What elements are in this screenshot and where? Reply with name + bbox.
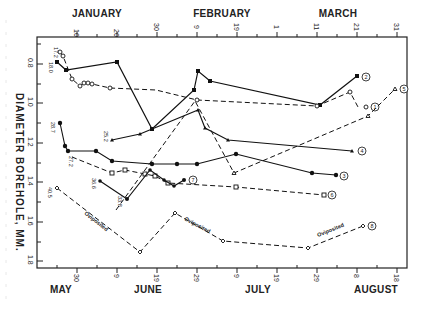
series-3: 3 <box>58 121 348 180</box>
month-label-february: FEBRUARY <box>193 8 251 19</box>
y-axis-title: DIAMETER BOREHOLE, MM. <box>14 93 25 252</box>
month-label-may: MAY <box>50 284 72 295</box>
start-value-labels: 18.0 17.2 28.7 27.2 25.2 36.6 33.8 40.5 <box>47 47 123 207</box>
top-tick: 20 <box>113 29 120 37</box>
y-tick: 0.8 <box>27 58 34 68</box>
bottom-tick: 9 <box>233 274 240 278</box>
month-label-august: AUGUST <box>354 284 398 295</box>
month-label-july: JULY <box>245 284 271 295</box>
month-label-june: JUNE <box>134 284 162 295</box>
y-tick: 1.0 <box>27 97 34 107</box>
series-3-id: 3 <box>342 173 345 179</box>
y-tick: 1.6 <box>27 216 34 226</box>
y-tick-labels: 0.8 1.0 1.2 1.4 1.6 1.8 <box>27 58 34 265</box>
bottom-axis <box>57 265 397 273</box>
bottom-tick: 8 <box>353 274 360 278</box>
start-label-36-6: 36.6 <box>91 178 97 189</box>
top-tick: 11 <box>313 23 320 30</box>
borehole-diameter-chart: JANUARY FEBRUARY MARCH MAY JUNE JULY AUG… <box>0 0 430 309</box>
oviposited-annotation-2: Oviposited <box>184 216 212 235</box>
series-6: 6 <box>72 157 336 199</box>
start-label-33-8: 33.8 <box>117 196 123 207</box>
top-tick: 31 <box>393 23 400 31</box>
y-tick: 1.2 <box>27 137 34 147</box>
series-7-id: 7 <box>191 177 194 183</box>
top-tick: 21 <box>353 23 360 31</box>
series-5-id: 5 <box>402 86 405 92</box>
series-6-id: 6 <box>330 192 333 198</box>
bottom-tick: 29 <box>193 274 200 282</box>
top-tick: 19 <box>233 23 240 31</box>
bottom-tick: 29 <box>313 274 320 282</box>
top-tick: 30 <box>153 23 160 31</box>
series-4: 4 <box>110 108 366 155</box>
series-4-id: 4 <box>360 148 363 154</box>
start-label-25-2: 25.2 <box>103 131 109 142</box>
series-1: 1 <box>58 50 379 111</box>
top-axis <box>77 32 397 37</box>
series-2: 2 <box>55 60 370 131</box>
start-label-17-2: 17.2 <box>53 47 59 58</box>
oviposited-annotation-1: Oviposited <box>83 210 109 232</box>
bottom-tick: 19 <box>153 274 160 282</box>
top-tick: 1 <box>273 25 280 29</box>
series-8-id: 8 <box>370 223 373 229</box>
start-label-28-7: 28.7 <box>50 122 56 133</box>
start-label-27-2: 27.2 <box>68 156 74 167</box>
bottom-tick: 18 <box>393 274 400 282</box>
top-tick: 10 <box>73 29 80 37</box>
month-label-march: MARCH <box>319 8 358 19</box>
y-tick: 1.4 <box>27 176 34 186</box>
bottom-tick: 19 <box>273 274 280 282</box>
series-2-id: 2 <box>364 74 367 80</box>
left-axis <box>37 44 43 261</box>
y-tick: 1.8 <box>27 255 34 265</box>
top-tick: 9 <box>193 25 200 29</box>
bottom-tick-labels: 30 9 19 29 9 19 29 8 18 <box>73 274 400 282</box>
start-label-18-0: 18.0 <box>48 62 54 73</box>
month-label-january: JANUARY <box>72 8 122 19</box>
bottom-tick: 30 <box>73 274 80 282</box>
bottom-tick: 9 <box>113 274 120 278</box>
start-label-40-5: 40.5 <box>47 187 53 198</box>
